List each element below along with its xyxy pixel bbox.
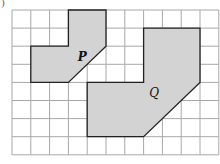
- shape-p: [31, 10, 106, 82]
- shape-label-p: P: [77, 50, 88, 64]
- shape-label-q: Q: [149, 86, 159, 100]
- shapes-layer: PQ: [31, 10, 200, 137]
- grid-diagram: PQ: [0, 0, 220, 164]
